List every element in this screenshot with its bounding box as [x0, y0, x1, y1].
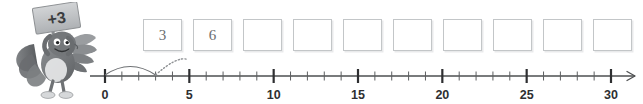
answer-box[interactable] — [543, 19, 582, 51]
tick-label: 5 — [186, 88, 193, 102]
tick-label: 25 — [520, 88, 534, 102]
tick-label: 10 — [267, 88, 281, 102]
tick-label: 30 — [604, 88, 618, 102]
number-line-svg: 051015202530 — [0, 55, 643, 104]
jump-arc-solid — [105, 67, 156, 76]
tick-labels: 051015202530 — [102, 88, 618, 102]
answer-boxes: 3 6 — [143, 19, 632, 53]
jump-arc-dotted — [156, 59, 187, 75]
answer-box[interactable] — [443, 19, 482, 51]
tick-label: 0 — [102, 88, 109, 102]
answer-box[interactable]: 3 — [143, 19, 182, 51]
tick-label: 15 — [351, 88, 365, 102]
tick-label: 20 — [435, 88, 449, 102]
sign-label: +3 — [46, 9, 67, 29]
number-line: 051015202530 — [0, 55, 643, 104]
axis — [90, 72, 635, 81]
skip-counting-worksheet: +3 3 6 051015202530 — [0, 0, 643, 104]
answer-box[interactable] — [493, 19, 532, 51]
plus-three-sign: +3 — [32, 2, 81, 34]
answer-box[interactable] — [343, 19, 382, 51]
answer-box[interactable]: 6 — [193, 19, 232, 51]
answer-box[interactable] — [593, 19, 632, 51]
jump-arcs — [105, 59, 187, 75]
answer-box[interactable] — [243, 19, 282, 51]
answer-box[interactable] — [393, 19, 432, 51]
answer-box[interactable] — [293, 19, 332, 51]
